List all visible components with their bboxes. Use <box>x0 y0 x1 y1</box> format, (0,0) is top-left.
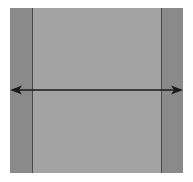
double-arrow-icon <box>0 0 193 182</box>
